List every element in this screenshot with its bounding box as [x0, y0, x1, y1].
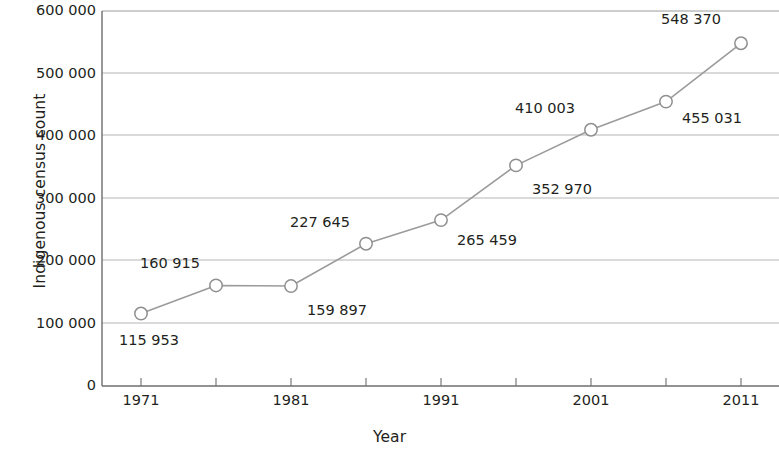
y-tick-label: 200 000: [4, 252, 96, 268]
data-point-value-label: 352 970: [532, 181, 592, 197]
y-tick-label: 100 000: [4, 315, 96, 331]
data-point-marker: [285, 280, 297, 292]
data-point-value-label: 548 370: [661, 11, 721, 27]
line-chart: Indigenous census count Year 600 000500 …: [0, 0, 779, 455]
data-point-value-label: 265 459: [457, 232, 517, 248]
data-point-marker: [510, 159, 522, 171]
x-axis-ticks: [141, 378, 741, 386]
x-tick-label: 2011: [701, 392, 779, 408]
data-point-marker: [135, 307, 147, 319]
data-line: [141, 43, 741, 313]
data-point-value-label: 115 953: [119, 332, 179, 348]
data-point-marker: [585, 124, 597, 136]
chart-plot-area: [0, 0, 779, 455]
y-tick-label: 500 000: [4, 65, 96, 81]
data-point-value-label: 410 003: [515, 100, 575, 116]
y-tick-label: 600 000: [4, 2, 96, 18]
x-tick-label: 2001: [551, 392, 631, 408]
x-tick-label: 1971: [101, 392, 181, 408]
data-point-value-label: 159 897: [307, 302, 367, 318]
y-tick-label: 0: [4, 377, 96, 393]
data-point-marker: [210, 279, 222, 291]
y-tick-label: 400 000: [4, 127, 96, 143]
data-point-value-label: 227 645: [290, 214, 350, 230]
y-tick-label: 300 000: [4, 190, 96, 206]
x-axis-title: Year: [0, 428, 779, 446]
data-point-marker: [360, 238, 372, 250]
data-point-marker: [660, 95, 672, 107]
x-tick-label: 1981: [251, 392, 331, 408]
data-point-marker: [735, 37, 747, 49]
data-point-value-label: 455 031: [682, 110, 742, 126]
gridlines: [102, 11, 779, 323]
x-tick-label: 1991: [401, 392, 481, 408]
data-point-marker: [435, 214, 447, 226]
data-markers: [135, 37, 747, 320]
data-point-value-label: 160 915: [140, 255, 200, 271]
